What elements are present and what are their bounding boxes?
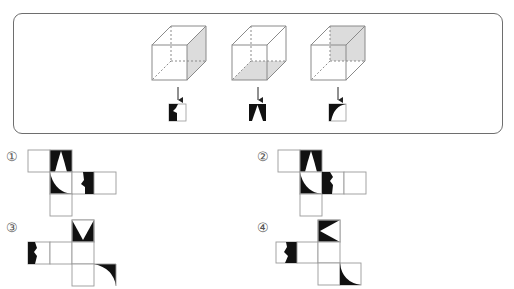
option-1-net[interactable]	[28, 150, 116, 216]
view-pattern-3	[329, 104, 346, 121]
option-3-label[interactable]: ③	[6, 221, 18, 235]
cube-2	[232, 26, 286, 80]
option-4-net[interactable]	[276, 220, 361, 285]
view-pattern-1	[169, 104, 186, 121]
option-4-label[interactable]: ④	[257, 221, 269, 235]
option-3-net[interactable]	[28, 220, 116, 286]
option-1-label[interactable]: ①	[6, 150, 18, 164]
cube-3	[311, 26, 365, 80]
view-pattern-2	[249, 104, 266, 121]
option-2-label[interactable]: ②	[257, 150, 269, 164]
diagram-canvas	[0, 0, 514, 289]
cube-1	[152, 26, 206, 80]
option-2-net[interactable]	[278, 150, 366, 216]
